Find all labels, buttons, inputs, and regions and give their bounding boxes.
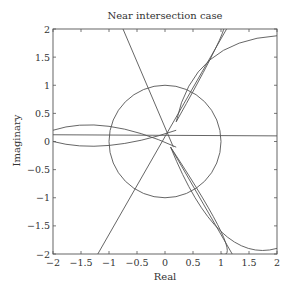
series-upper-arc [176,36,277,122]
y-tick-label: 0 [44,136,50,147]
x-tick-label: −0.5 [125,257,148,268]
plot-area: −2−1.5−1−0.500.511.5221.510.50−0.5−1−1.5… [0,0,293,296]
y-tick-label: 2 [44,24,50,35]
x-tick-label: 1.5 [241,257,256,268]
y-tick-label: −1 [36,192,50,203]
series-unit-circle [109,85,221,198]
y-tick-label: 1 [44,80,50,91]
y-tick-label: −0.5 [27,164,50,175]
series-lower-arc [171,147,277,250]
x-tick-label: 0.5 [185,257,200,268]
x-tick-label: 1 [218,257,224,268]
series-lower-lens-arcs [171,147,228,254]
x-tick-label: −1 [102,257,116,268]
plot-frame [53,29,277,254]
x-tick-label: 2 [274,257,280,268]
series-left-lens-lower [53,130,176,146]
x-tick-label: 0 [162,257,168,268]
y-tick-label: 1.5 [35,52,50,63]
y-tick-label: 0.5 [35,108,50,119]
y-tick-label: −2 [36,249,50,260]
series-line-to-lower-right [171,147,233,254]
x-tick-label: −1.5 [69,257,92,268]
y-tick-label: −1.5 [27,220,50,231]
series-steep-line-down-right [123,29,173,147]
